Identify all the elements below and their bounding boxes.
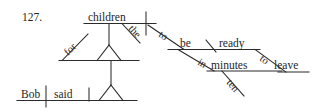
word-leave: leave: [274, 59, 298, 71]
diagram-canvas: 127. Bob said children the for to be rea…: [0, 0, 313, 112]
word-minutes: minutes: [211, 59, 248, 71]
word-be: be: [180, 37, 191, 49]
word-the: the: [127, 23, 144, 40]
word-to-infinitive: to: [157, 29, 170, 43]
lower-stand-left-leg: [99, 85, 111, 101]
word-ready: ready: [219, 37, 245, 50]
word-said: said: [54, 88, 73, 100]
word-children: children: [88, 11, 126, 23]
word-ten: ten: [225, 77, 242, 94]
word-for: for: [62, 41, 79, 58]
sentence-diagram-figure: 127. Bob said children the for to be rea…: [0, 0, 313, 112]
word-to-leave-marker: to: [258, 53, 271, 67]
item-number: 127.: [22, 11, 42, 23]
be-ready-complement-slash: [206, 40, 216, 52]
lower-stand-right-leg: [111, 85, 123, 101]
word-bob: Bob: [21, 88, 40, 100]
lower-clause-stand-group: [99, 61, 123, 101]
word-in: in: [196, 56, 209, 70]
middle-stand-left-leg: [97, 45, 109, 61]
middle-stand-right-leg: [109, 45, 121, 61]
